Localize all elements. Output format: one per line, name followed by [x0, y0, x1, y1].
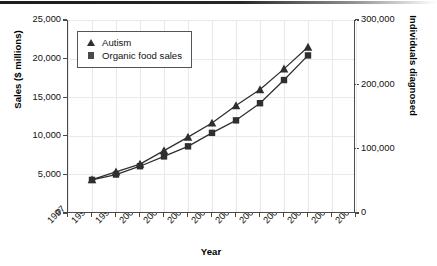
legend-item-autism: Autism	[85, 36, 182, 49]
data-point-marker-square	[161, 153, 167, 159]
data-point-marker-triangle	[304, 43, 313, 51]
y-axis-left-tick-label: 10,000	[0, 131, 61, 140]
square-marker-icon	[85, 52, 97, 59]
x-axis-tick-mark	[139, 213, 140, 217]
x-axis-tick-mark	[331, 213, 332, 217]
legend-item-organic-food-sales: Organic food sales	[85, 49, 182, 62]
y-axis-right-tick-label: 100,000	[361, 144, 395, 153]
y-axis-right-tick-label: 200,000	[361, 80, 395, 89]
x-axis-tick-mark	[283, 213, 284, 217]
y-axis-right-tick-label: 0	[361, 208, 366, 217]
y-axis-right-title: Individuals diagnosed	[408, 0, 419, 136]
data-point-marker-triangle	[232, 101, 241, 109]
legend-item-label: Organic food sales	[102, 50, 182, 61]
data-point-marker-square	[137, 163, 143, 169]
chart-figure: Sales ($ millions) Individuals diagnosed…	[0, 0, 437, 266]
y-axis-left-tick-label: 15,000	[0, 93, 61, 102]
data-point-marker-square	[233, 117, 239, 123]
y-axis-left-tick-label: 5,000	[0, 170, 61, 179]
x-axis-tick-mark	[187, 213, 188, 217]
data-point-marker-square	[257, 100, 263, 106]
x-axis-tick-mark	[355, 213, 356, 217]
data-point-marker-square	[209, 130, 215, 136]
data-point-marker-square	[305, 52, 311, 58]
scan-edge-artifact	[0, 1, 437, 4]
x-axis-tick-mark	[91, 213, 92, 217]
data-point-marker-square	[185, 143, 191, 149]
y-axis-right-tick-label: 300,000	[361, 15, 395, 24]
x-axis-tick-mark	[115, 213, 116, 217]
x-axis-tick-mark	[235, 213, 236, 217]
y-axis-left-tick-label: 20,000	[0, 54, 61, 63]
data-point-marker-triangle	[208, 119, 217, 127]
data-point-marker-square	[113, 171, 119, 177]
legend-item-label: Autism	[102, 37, 131, 48]
data-point-marker-triangle	[184, 133, 193, 141]
data-point-marker-square	[281, 77, 287, 83]
y-axis-left-tick-label: 25,000	[0, 15, 61, 24]
gridline-vertical	[356, 20, 357, 212]
x-axis-tick-mark	[259, 213, 260, 217]
x-axis-tick-mark	[211, 213, 212, 217]
data-point-marker-square	[89, 177, 95, 183]
data-point-marker-triangle	[160, 146, 169, 154]
triangle-marker-icon	[85, 39, 97, 46]
chart-legend: Autism Organic food sales	[77, 31, 192, 68]
x-axis-title: Year	[67, 246, 355, 257]
x-axis-tick-mark	[163, 213, 164, 217]
x-axis-tick-mark	[307, 213, 308, 217]
series-line-square	[92, 55, 308, 179]
x-axis-tick-mark	[67, 213, 68, 217]
